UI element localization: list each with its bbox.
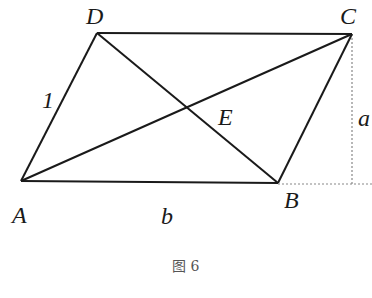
label-D: D [85, 3, 103, 29]
label-B: B [284, 187, 299, 213]
diagonal-DB [97, 33, 278, 183]
label-height: a [358, 105, 370, 131]
label-E: E [217, 104, 233, 130]
side-BC [278, 34, 352, 183]
side-CD [97, 33, 352, 34]
side-DA [21, 33, 97, 181]
label-side-AD: 1 [42, 87, 54, 113]
label-side-AB: b [161, 203, 173, 229]
label-C: C [340, 3, 357, 29]
figure-caption: 图 6 [172, 258, 199, 274]
side-AB [21, 181, 278, 183]
parallelogram-diagram: D C A B E 1 b a 图 6 [0, 0, 372, 298]
label-A: A [10, 202, 27, 228]
